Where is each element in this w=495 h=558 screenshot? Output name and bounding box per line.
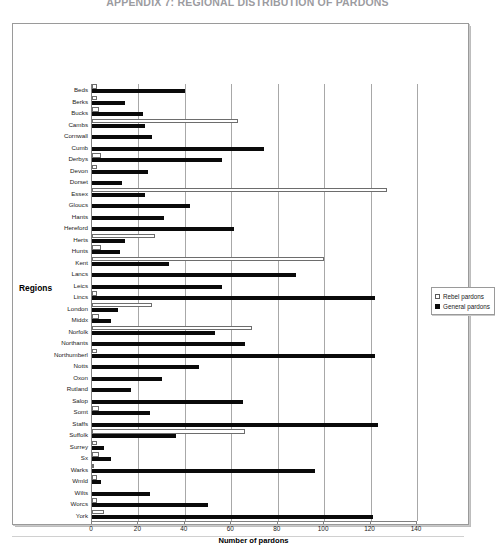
chart-row: Lancs [92,268,417,279]
bar-general-middx [92,319,111,323]
category-label-northumberl: Northumberl [54,349,88,360]
bar-general-hereford [92,227,234,231]
category-label-dorset: Dorset [70,176,88,187]
chart-row: Hunts [92,245,417,256]
chart-row: Surrey [92,441,417,452]
bar-general-warks [92,469,315,473]
chart-row: Sx [92,452,417,463]
hollow-square-icon [435,294,440,299]
chart-legend: Rebel pardonsGeneral pardons [431,287,495,315]
bar-general-oxon [92,377,162,381]
chart-row: Norfolk [92,326,417,337]
category-label-cumb: Cumb [71,142,88,153]
category-label-wilts: Wilts [75,487,88,498]
x-axis-title: Number of pardons [91,536,416,545]
category-label-oxon: Oxon [73,372,88,383]
category-label-rutland: Rutland [67,383,88,394]
bar-general-sx [92,457,111,461]
page-bottom-rule [12,536,464,537]
chart-row: York [92,510,417,521]
chart-row: Middx [92,314,417,325]
x-tick-label-100: 100 [318,525,329,532]
category-label-worcs: Worcs [71,498,88,509]
bar-general-bucks [92,112,143,116]
chart-row: Cumb [92,142,417,153]
bar-general-surrey [92,446,104,450]
category-label-beds: Beds [74,84,88,95]
x-tick-label-20: 20 [134,525,141,532]
category-label-devon: Devon [70,165,88,176]
bar-general-rutland [92,388,131,392]
category-label-lancs: Lancs [71,268,88,279]
bar-general-gloucs [92,204,190,208]
category-label-cambs: Cambs [68,119,88,130]
chart-row: Essex [92,188,417,199]
bar-general-cumb [92,147,264,151]
x-tick-mark-140 [416,521,417,524]
bar-general-york [92,515,373,519]
chart-row: Wilts [92,487,417,498]
bar-rebel-northumberl [92,349,97,353]
x-tick-mark-120 [370,521,371,524]
bar-general-staffs [92,423,378,427]
bar-rebel-wmld [92,475,97,479]
x-tick-mark-60 [230,521,231,524]
bar-general-suffolk [92,434,176,438]
chart-row: Devon [92,165,417,176]
bar-rebel-worcs [92,498,97,502]
bar-general-devon [92,170,148,174]
bar-rebel-berks [92,96,97,100]
category-label-somt: Somt [74,406,88,417]
chart-row: Cornwall [92,130,417,141]
category-label-surrey: Surrey [70,441,88,452]
legend-label: General pardons [443,303,490,310]
bar-rebel-surrey [92,441,97,445]
chart-row: Dorset [92,176,417,187]
bar-general-herts [92,239,125,243]
bar-rebel-essex [92,188,387,192]
bar-rebel-suffolk [92,429,245,433]
bar-general-lancs [92,273,296,277]
chart-row: Warks [92,464,417,475]
chart-row: Salop [92,395,417,406]
category-label-lincs: Lincs [74,291,88,302]
x-tick-mark-100 [323,521,324,524]
chart-row: Notts [92,360,417,371]
bar-general-leics [92,285,222,289]
bar-rebel-derbys [92,153,101,157]
x-axis-ticks: 020406080100120140 [91,521,416,531]
bar-general-wmld [92,480,101,484]
category-label-berks: Berks [72,96,88,107]
gridline-140 [417,84,418,521]
bar-general-wilts [92,492,150,496]
bar-general-norfolk [92,331,215,335]
category-label-notts: Notts [74,360,88,371]
category-label-gloucs: Gloucs [69,199,88,210]
bar-general-essex [92,193,145,197]
document-title: APPENDIX 7: REGIONAL DISTRIBUTION OF PAR… [0,0,495,8]
category-label-middx: Middx [71,314,88,325]
bar-general-hunts [92,250,120,254]
category-label-leics: Leics [74,280,88,291]
bar-general-dorset [92,181,122,185]
chart-plot-area: BedsBerksBucksCambsCornwallCumbDerbysDev… [91,84,417,522]
category-label-northants: Northants [61,337,88,348]
bar-rebel-middx [92,314,99,318]
bar-rebel-warks [92,464,94,468]
chart-row: Herts [92,234,417,245]
x-tick-mark-20 [137,521,138,524]
bar-general-hants [92,216,164,220]
chart-row: Lincs [92,291,417,302]
chart-row: Gloucs [92,199,417,210]
x-tick-label-40: 40 [180,525,187,532]
category-label-cornwall: Cornwall [64,130,88,141]
bar-general-cambs [92,124,145,128]
chart-row: Somt [92,406,417,417]
bar-rebel-somt [92,406,99,410]
bar-general-salop [92,400,243,404]
chart-row: Berks [92,96,417,107]
x-tick-mark-80 [277,521,278,524]
category-label-kent: Kent [75,257,88,268]
filled-square-icon [435,304,440,309]
category-label-bucks: Bucks [71,107,88,118]
